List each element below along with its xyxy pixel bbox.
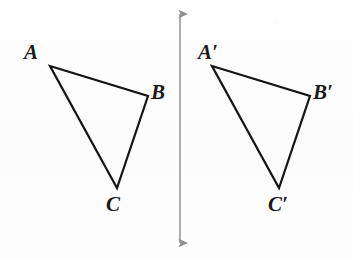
vertex-label-c: C (106, 194, 120, 215)
vertex-label-a: A (24, 42, 38, 63)
vertex-label-b: B (151, 82, 165, 103)
vertex-label-b-prime: B′ (313, 82, 333, 103)
figure-canvas (0, 0, 353, 258)
prime-mark-b: ′ (327, 80, 333, 104)
vertex-label-c-prime-base: C (268, 192, 282, 216)
triangle-abc-prime (212, 66, 310, 188)
geometry-figure: A B C A′ B′ C′ (0, 0, 353, 258)
prime-mark-a: ′ (212, 40, 218, 64)
triangle-abc (50, 66, 148, 188)
vertex-label-a-prime-base: A (198, 40, 212, 64)
vertex-label-c-prime: C′ (268, 194, 288, 215)
prime-mark-c: ′ (282, 192, 288, 216)
vertex-label-a-prime: A′ (198, 42, 218, 63)
vertex-label-b-prime-base: B (313, 80, 327, 104)
